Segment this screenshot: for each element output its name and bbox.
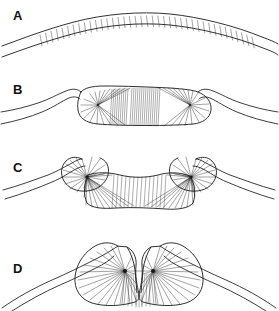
figure-panel-group: A B C D xyxy=(0,0,279,311)
panel-label-c: C xyxy=(13,161,22,174)
panel-b-right-tail-upper xyxy=(198,89,278,112)
panel-d-left-tail-upper xyxy=(2,246,118,308)
panel-a-drawing xyxy=(2,13,278,57)
panel-c-right-tail-lower xyxy=(193,166,274,199)
panel-label-a: A xyxy=(13,9,22,22)
diagram-canvas xyxy=(0,0,279,311)
panel-a-outer-curve xyxy=(2,13,278,46)
panel-b-mid-striations xyxy=(110,88,160,126)
panel-d-bottom-striations xyxy=(120,273,158,307)
panel-b-drawing xyxy=(1,86,278,126)
panel-label-b: B xyxy=(13,83,22,96)
panel-label-d: D xyxy=(13,262,22,275)
panel-d-drawing xyxy=(2,243,276,311)
panel-b-left-tail-lower xyxy=(1,97,80,124)
panel-d-right-tail-upper xyxy=(160,246,276,308)
panel-c-mid-striations xyxy=(112,175,166,208)
panel-a-inner-curve xyxy=(2,24,278,57)
panel-c-left-body-fan xyxy=(84,174,134,208)
panel-d-right-tail-lower xyxy=(164,256,266,311)
panel-d-left-tail-lower xyxy=(12,256,114,311)
panel-b-left-fan xyxy=(81,88,130,125)
panel-a-rungs xyxy=(40,16,254,48)
panel-c-drawing xyxy=(3,157,275,209)
panel-c-right-body-fan xyxy=(145,174,195,208)
